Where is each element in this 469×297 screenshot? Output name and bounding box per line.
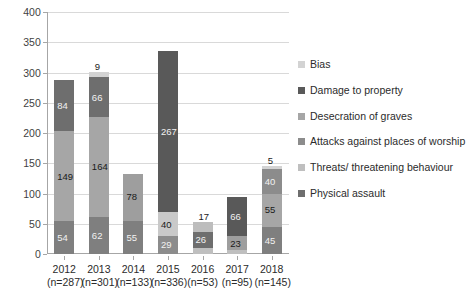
x-tick-year: 2016 <box>185 263 220 276</box>
bar-stack[interactable]: 5414984 <box>54 80 74 254</box>
bar-segment-value-label: 66 <box>227 212 241 222</box>
x-tick-label: 2015(n=336) <box>151 263 186 289</box>
bar-segment[interactable]: 55 <box>123 221 143 254</box>
x-tick-sample-size: (n=53) <box>185 276 220 289</box>
bar-segment-value-label: 62 <box>89 231 103 241</box>
bar-stack[interactable]: 62164669 <box>89 72 109 254</box>
x-tick-label: 2014(n=133) <box>116 263 151 289</box>
x-tick-year: 2012 <box>47 263 82 276</box>
bar-segment[interactable]: 62 <box>89 217 109 255</box>
bar-segment[interactable]: 29 <box>158 236 178 254</box>
x-tick-year: 2014 <box>116 263 151 276</box>
legend-item-label: Attacks against places of worship <box>310 135 465 148</box>
bar-segment[interactable]: 164 <box>89 117 109 216</box>
x-tick-label: 2016(n=53) <box>185 263 220 289</box>
x-tick-sample-size: (n=336) <box>151 276 186 289</box>
x-tick-label: 2017(n=95) <box>220 263 255 289</box>
bar-segment[interactable]: 5 <box>262 166 282 169</box>
bar-segment[interactable]: 40 <box>158 212 178 236</box>
bar-segment-value-label: 40 <box>262 177 276 187</box>
bar-segment[interactable]: 66 <box>227 197 247 237</box>
legend-item[interactable]: Bias <box>298 58 466 71</box>
bar-stack[interactable]: 102617 <box>193 222 213 254</box>
y-tick-label: 200 <box>23 127 41 139</box>
bar-segment[interactable]: 45 <box>262 227 282 254</box>
chart-root: 050100150200250300350400 541498462164669… <box>0 0 469 297</box>
bar-segment-value-label: 78 <box>123 192 137 202</box>
bar-segment[interactable]: 55 <box>262 194 282 227</box>
bar-segment-value-label: 66 <box>89 93 103 103</box>
bar-segment-value-label: 5 <box>265 156 273 166</box>
bar-segment[interactable]: 84 <box>54 80 74 131</box>
bar-segment[interactable]: 26 <box>193 232 213 248</box>
legend-item-label: Damage to property <box>310 84 403 97</box>
y-tick-label: 300 <box>23 67 41 79</box>
bar-stack[interactable]: 62366 <box>227 197 247 254</box>
bar-segment-value-label: 9 <box>92 62 100 72</box>
legend-swatch-icon <box>298 164 305 171</box>
legend-item-label: Threats/ threatening behaviour <box>310 161 453 174</box>
x-tick-mark <box>237 256 238 260</box>
x-tick-label: 2012(n=287) <box>47 263 82 289</box>
x-tick-sample-size: (n=287) <box>47 276 82 289</box>
legend-item-label: Bias <box>310 58 330 71</box>
bar-segment-value-label: 40 <box>158 220 172 230</box>
x-tick-year: 2015 <box>151 263 186 276</box>
bar-segment[interactable]: 267 <box>158 51 178 213</box>
plot-area: 050100150200250300350400 541498462164669… <box>47 12 289 254</box>
bar-segment[interactable]: 54 <box>54 221 74 254</box>
bar-segment[interactable]: 23 <box>227 236 247 250</box>
legend-item[interactable]: Physical assault <box>298 187 466 200</box>
bar-segment-value-label: 55 <box>262 205 276 215</box>
x-axis: 2012(n=287)2013(n=301)2014(n=133)2015(n=… <box>47 256 289 292</box>
bar-segment[interactable]: 40 <box>262 169 282 193</box>
x-tick-year: 2017 <box>220 263 255 276</box>
legend-swatch-icon <box>298 61 305 68</box>
legend-item[interactable]: Threats/ threatening behaviour <box>298 161 466 174</box>
y-tick-label: 150 <box>23 157 41 169</box>
bar-segment-value-label: 23 <box>227 239 241 249</box>
x-tick-label: 2013(n=301) <box>82 263 117 289</box>
bar-segment[interactable]: 17 <box>193 222 213 232</box>
legend-item-label: Desecration of graves <box>310 110 412 123</box>
bar-stack[interactable]: 4555405 <box>262 166 282 254</box>
bar-segment-value-label: 55 <box>123 233 137 243</box>
legend-item[interactable]: Desecration of graves <box>298 110 466 123</box>
y-tick-label: 400 <box>23 6 41 18</box>
x-tick-sample-size: (n=133) <box>116 276 151 289</box>
bar-segment-value-label: 84 <box>54 101 68 111</box>
bars-layer: 5414984621646695578294026710261762366455… <box>47 12 289 254</box>
bar-stack[interactable]: 2940267 <box>158 51 178 254</box>
x-tick-mark <box>272 256 273 260</box>
chart-legend: BiasDamage to propertyDesecration of gra… <box>298 58 466 213</box>
x-tick-mark <box>168 256 169 260</box>
bar-stack[interactable]: 5578 <box>123 174 143 254</box>
legend-swatch-icon <box>298 138 305 145</box>
legend-item-label: Physical assault <box>310 187 385 200</box>
bar-segment[interactable]: 10 <box>193 248 213 254</box>
y-tick-mark <box>43 254 47 255</box>
legend-item[interactable]: Damage to property <box>298 84 466 97</box>
bar-segment-value-label: 267 <box>158 127 177 137</box>
legend-swatch-icon <box>298 113 305 120</box>
bar-segment-value-label: 54 <box>54 233 68 243</box>
y-tick-label: 100 <box>23 188 41 200</box>
y-tick-label: 50 <box>29 218 41 230</box>
bar-segment[interactable]: 78 <box>123 174 143 221</box>
bar-segment[interactable]: 6 <box>227 250 247 254</box>
y-tick-label: 350 <box>23 36 41 48</box>
bar-segment[interactable]: 9 <box>89 72 109 77</box>
bar-segment-value-label: 17 <box>196 212 210 222</box>
bar-segment-value-label: 29 <box>158 240 172 250</box>
bar-segment-value-label: 149 <box>54 172 73 182</box>
x-tick-mark <box>99 256 100 260</box>
x-tick-year: 2018 <box>254 263 289 276</box>
legend-item[interactable]: Attacks against places of worship <box>298 135 466 148</box>
bar-segment-value-label: 45 <box>262 236 276 246</box>
bar-segment[interactable]: 66 <box>89 77 109 117</box>
bar-segment-value-label: 26 <box>193 235 207 245</box>
bar-segment[interactable]: 149 <box>54 131 74 221</box>
x-tick-year: 2013 <box>82 263 117 276</box>
x-tick-label: 2018(n=145) <box>254 263 289 289</box>
legend-swatch-icon <box>298 190 305 197</box>
